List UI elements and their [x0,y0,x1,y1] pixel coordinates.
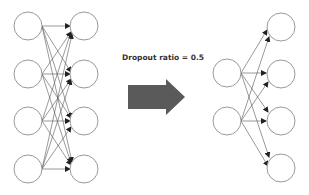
output-node-2 [267,60,295,88]
full-network-input-layer [14,12,42,183]
output-node-4 [70,155,98,183]
output-node-2 [70,60,98,88]
dropout-diagram [0,0,309,195]
dropout-network-output-layer [267,13,295,182]
input-node-2 [14,60,42,88]
full-network-output-layer [70,12,98,183]
kept-input-node-1 [213,59,241,87]
output-node-3 [70,107,98,135]
input-node-4 [14,155,42,183]
dropout-network-input-layer [213,59,241,135]
dropout-ratio-label: Dropout ratio = 0.5 [122,53,204,62]
output-node-3 [267,107,295,135]
transform-arrow-icon [128,79,185,115]
kept-input-node-2 [213,107,241,135]
output-node-4 [267,154,295,182]
input-node-1 [14,12,42,40]
output-node-1 [70,12,98,40]
input-node-3 [14,107,42,135]
output-node-1 [267,13,295,41]
dropout-network-edges [241,30,269,166]
full-network-edges [42,26,72,169]
